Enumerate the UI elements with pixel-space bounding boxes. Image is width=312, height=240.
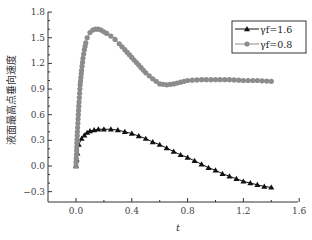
circle-marker [85, 35, 90, 40]
circle-marker [218, 77, 223, 82]
legend-label: γf=0.8 [260, 39, 292, 50]
circle-marker [222, 77, 227, 82]
legend-circle-icon [244, 41, 249, 46]
x-axis-title: t [176, 222, 181, 233]
circle-marker [190, 78, 195, 83]
circle-marker [236, 78, 241, 83]
circle-marker [255, 78, 260, 83]
triangle-marker [199, 161, 205, 166]
triangle-marker [206, 165, 212, 170]
circle-marker [245, 78, 250, 83]
x-tick-label: 0.0 [69, 206, 84, 216]
y-tick-label: 0.0 [31, 161, 46, 171]
y-axis-title: 液面最高点垂向速度 [5, 55, 17, 145]
circle-marker [185, 78, 190, 83]
circle-marker [264, 78, 269, 83]
circle-marker [250, 78, 255, 83]
triangle-marker [219, 171, 225, 176]
y-tick-label: 0.3 [31, 135, 46, 145]
series-triangle [73, 126, 274, 189]
y-tick-label: 0.9 [31, 84, 46, 94]
circle-marker [241, 78, 246, 83]
circle-marker [259, 78, 264, 83]
circle-marker [232, 77, 237, 82]
circle-marker [83, 40, 88, 45]
y-tick-label: 1.2 [31, 58, 45, 68]
line-chart: 0.00.40.81.21.6−0.30.00.30.60.91.21.51.8… [0, 0, 312, 240]
circle-marker [204, 77, 209, 82]
legend: γf=1.6γf=0.8 [232, 21, 306, 53]
y-tick-label: 0.6 [31, 110, 46, 120]
circle-marker [199, 77, 204, 82]
circle-marker [112, 37, 117, 42]
triangle-marker [171, 148, 177, 153]
x-tick-label: 1.2 [236, 206, 250, 216]
series-line [76, 129, 271, 187]
triangle-marker [192, 158, 198, 163]
x-tick-label: 0.4 [125, 206, 140, 216]
triangle-marker [178, 152, 184, 157]
circle-marker [227, 77, 232, 82]
x-tick-label: 0.8 [180, 206, 195, 216]
circle-marker [194, 77, 199, 82]
legend-label: γf=1.6 [260, 24, 292, 35]
triangle-marker [150, 139, 156, 144]
y-tick-label: −0.3 [23, 187, 45, 197]
triangle-marker [164, 145, 170, 150]
x-tick-label: 1.6 [292, 206, 307, 216]
circle-marker [208, 77, 213, 82]
y-tick-label: 1.8 [31, 7, 46, 17]
circle-marker [213, 77, 218, 82]
circle-marker [108, 33, 113, 38]
y-tick-label: 1.5 [31, 33, 46, 43]
circle-marker [269, 79, 274, 84]
